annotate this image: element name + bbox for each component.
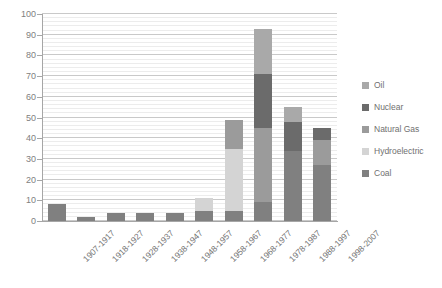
y-axis-tick-mark [37, 76, 42, 77]
bar-column [225, 14, 243, 221]
bar-column [166, 14, 184, 221]
bar-column [284, 14, 302, 221]
y-axis-tick-mark [37, 35, 42, 36]
chart-legend: OilNuclearNatural GasHydroelectricCoal [362, 74, 442, 184]
bar-segment-coal [107, 213, 125, 221]
y-axis-tick-mark [37, 221, 42, 222]
bar-segment-hydroelectric [195, 198, 213, 210]
y-axis-tick-mark [37, 159, 42, 160]
legend-swatch-icon [362, 126, 369, 133]
bar-segment-oil [254, 29, 272, 75]
bar-column [313, 14, 331, 221]
bar-column [48, 14, 66, 221]
y-axis-tick-label: 0 [2, 217, 36, 226]
bar-segment-coal [284, 151, 302, 221]
y-axis-tick-label: 30 [2, 154, 36, 163]
y-axis-tick-label: 90 [2, 30, 36, 39]
y-axis-line [42, 14, 43, 222]
bar-segment-coal [313, 165, 331, 221]
bar-segment-natural-gas [313, 140, 331, 165]
legend-item[interactable]: Oil [362, 74, 442, 96]
y-axis-tick-label: 60 [2, 92, 36, 101]
bar-segment-natural-gas [225, 120, 243, 149]
legend-label: Oil [374, 81, 384, 90]
bar-column [77, 14, 95, 221]
bar-segment-coal [254, 202, 272, 221]
stacked-bar-chart: 0102030405060708090100 1907-19171918-192… [0, 0, 442, 288]
y-axis-tick-label: 10 [2, 196, 36, 205]
bar-column [107, 14, 125, 221]
bar-segment-hydroelectric [225, 149, 243, 211]
bar-segment-nuclear [254, 74, 272, 128]
y-axis-tick-mark [37, 97, 42, 98]
y-axis-tick-label: 50 [2, 113, 36, 122]
legend-label: Coal [374, 169, 391, 178]
plot-area [42, 14, 337, 221]
x-axis-tick-labels: 1907-19171918-19271928-19371938-19471948… [42, 222, 337, 288]
y-axis-tick-mark [37, 14, 42, 15]
y-axis-tick-label: 70 [2, 72, 36, 81]
legend-swatch-icon [362, 82, 369, 89]
bar-column [195, 14, 213, 221]
legend-item[interactable]: Hydroelectric [362, 140, 442, 162]
bar-series-container [42, 14, 337, 221]
legend-label: Natural Gas [374, 125, 419, 134]
legend-item[interactable]: Nuclear [362, 96, 442, 118]
y-axis-tick-label: 100 [2, 10, 36, 19]
bar-segment-coal [166, 213, 184, 221]
bar-column [136, 14, 154, 221]
bar-column [254, 14, 272, 221]
y-axis-tick-mark [37, 180, 42, 181]
legend-item[interactable]: Coal [362, 162, 442, 184]
y-axis-tick-mark [37, 200, 42, 201]
legend-item[interactable]: Natural Gas [362, 118, 442, 140]
y-axis-tick-mark [37, 138, 42, 139]
legend-swatch-icon [362, 170, 369, 177]
y-axis-tick-mark [37, 118, 42, 119]
bar-segment-nuclear [284, 122, 302, 151]
bar-segment-coal [48, 204, 66, 221]
legend-swatch-icon [362, 148, 369, 155]
bar-segment-oil [284, 107, 302, 121]
bar-segment-coal [225, 211, 243, 221]
legend-swatch-icon [362, 104, 369, 111]
legend-label: Hydroelectric [374, 147, 424, 156]
legend-label: Nuclear [374, 103, 403, 112]
y-axis-tick-label: 80 [2, 51, 36, 60]
y-axis-tick-labels: 0102030405060708090100 [0, 0, 36, 288]
y-axis-tick-label: 40 [2, 134, 36, 143]
bar-segment-coal [136, 213, 154, 221]
y-axis-tick-label: 20 [2, 175, 36, 184]
y-axis-tick-mark [37, 55, 42, 56]
bar-segment-coal [195, 211, 213, 221]
bar-segment-natural-gas [254, 128, 272, 203]
bar-segment-nuclear [313, 128, 331, 140]
